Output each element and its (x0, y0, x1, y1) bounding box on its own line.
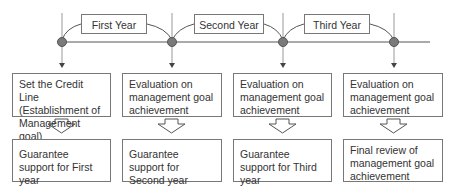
block-arrow-icon (158, 119, 185, 133)
arrow-down-icon (59, 63, 65, 68)
year-label-first: First Year (81, 14, 147, 34)
stage-3-top-box: Evaluation on management goal achievemen… (233, 73, 332, 117)
milestone-dot (58, 38, 67, 47)
stage-1-bottom-box: Guarantee support for First year (12, 139, 111, 182)
block-arrow-icon (380, 119, 407, 133)
stage-2-bottom-box: Guarantee support for Second year (122, 139, 222, 182)
milestone-dot (168, 38, 177, 47)
year-label-third: Third Year (304, 14, 370, 34)
milestone-dot (279, 38, 288, 47)
arrow-down-icon (169, 63, 175, 68)
arrow-down-icon (391, 63, 397, 68)
stage-3-bottom-box: Guarantee support for Third year (233, 139, 332, 182)
year-label-second: Second Year (194, 14, 264, 34)
stage-1-top-box: Set the Credit Line (Establishment of Ma… (12, 73, 111, 117)
arrow-down-icon (280, 63, 286, 68)
stage-4-top-box: Evaluation on management goal achievemen… (343, 73, 443, 117)
stage-4-bottom-box: Final review of management goal achievem… (343, 139, 443, 182)
stage-2-top-box: Evaluation on management goal achievemen… (122, 73, 222, 117)
milestone-dot (390, 38, 399, 47)
block-arrow-icon (269, 119, 296, 133)
